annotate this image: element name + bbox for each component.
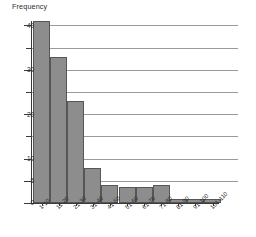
bar — [33, 21, 50, 203]
y-axis-label: 10 — [12, 155, 34, 162]
x-axis-labels: 1-1011-2021-3031-4041-5051-6061-7071-808… — [0, 204, 256, 237]
bar-series — [31, 21, 238, 203]
y-axis-label: 20 — [12, 111, 34, 118]
bar — [67, 101, 84, 203]
chart-title: Frequency — [12, 2, 47, 11]
y-axis-tick — [26, 136, 31, 137]
y-axis-label: 5 — [12, 177, 34, 184]
y-axis-label: 40 — [12, 22, 34, 29]
y-axis-tick — [26, 92, 31, 93]
frequency-histogram: Frequency 0510203040 1-1011-2021-3031-40… — [0, 0, 256, 237]
plot-area — [31, 21, 238, 203]
bar — [50, 57, 67, 203]
y-axis-tick — [26, 48, 31, 49]
y-axis-label: 30 — [12, 66, 34, 73]
